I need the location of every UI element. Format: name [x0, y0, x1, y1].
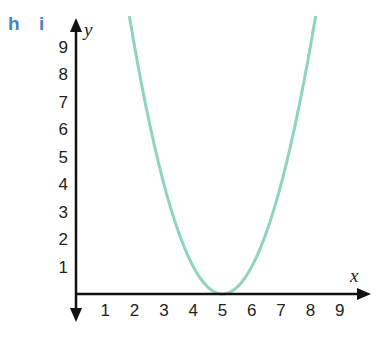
x-tick-6: 6 — [247, 301, 256, 320]
y-tick-3: 3 — [59, 203, 68, 222]
y-axis-arrow-down-icon — [70, 308, 82, 322]
y-tick-9: 9 — [59, 38, 68, 57]
x-tick-7: 7 — [276, 301, 285, 320]
y-axis-arrow-up-icon — [70, 18, 82, 32]
x-tick-9: 9 — [335, 301, 344, 320]
x-tick-5: 5 — [218, 301, 227, 320]
y-tick-6: 6 — [59, 120, 68, 139]
y-tick-labels: 123456789 — [59, 38, 68, 277]
y-tick-5: 5 — [59, 148, 68, 167]
y-tick-8: 8 — [59, 65, 68, 84]
y-tick-4: 4 — [59, 175, 68, 194]
x-tick-8: 8 — [306, 301, 315, 320]
y-axis-label: y — [82, 19, 93, 40]
y-tick-2: 2 — [59, 230, 68, 249]
x-tick-1: 1 — [101, 301, 110, 320]
x-tick-4: 4 — [188, 301, 197, 320]
x-tick-3: 3 — [159, 301, 168, 320]
parabola-curve — [129, 16, 315, 294]
x-axis-label: x — [349, 265, 359, 286]
x-axis-arrow-right-icon — [357, 288, 371, 300]
y-tick-7: 7 — [59, 93, 68, 112]
chart: y x 123456789 123456789 — [0, 0, 381, 338]
x-tick-2: 2 — [130, 301, 139, 320]
y-tick-1: 1 — [59, 258, 68, 277]
x-tick-labels: 123456789 — [101, 301, 345, 320]
